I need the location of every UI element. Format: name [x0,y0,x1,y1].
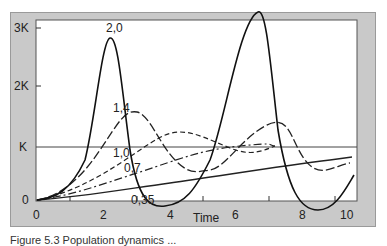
x-tick-2: 2 [100,208,107,222]
x-tick-8: 8 [299,208,306,222]
label-0-35: 0,35 [131,193,155,207]
y-tick-k: K [19,140,27,154]
label-1-4: 1,4 [113,101,130,115]
x-tick-10: 10 [340,208,354,222]
label-1-0: 1,0 [113,146,130,160]
y-tick-0: 0 [22,193,29,207]
label-0-7: 0,7 [124,161,141,175]
x-tick-6: 6 [232,208,239,222]
figure-caption: Figure 5.3 Population dynamics ... [10,234,176,246]
y-tick-3k: 3K [14,21,29,35]
x-tick-0: 0 [33,208,40,222]
x-axis-label: Time [193,211,220,225]
label-2-0: 2,0 [106,21,123,35]
plot-area [36,20,357,201]
y-tick-2k: 2K [14,79,29,93]
x-tick-4: 4 [167,208,174,222]
